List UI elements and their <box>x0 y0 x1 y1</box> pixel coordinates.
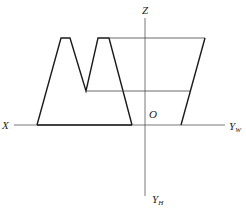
origin-label: O <box>149 108 157 120</box>
front-view-outline <box>37 38 132 125</box>
yh-axis-label: YH <box>152 193 164 207</box>
yw-axis-label: YW <box>229 120 242 134</box>
x-axis-label: X <box>1 119 10 131</box>
projection-diagram: Z X O YW YH <box>0 0 246 212</box>
side-view-slant-edge <box>181 38 205 125</box>
z-axis-label: Z <box>142 4 149 16</box>
